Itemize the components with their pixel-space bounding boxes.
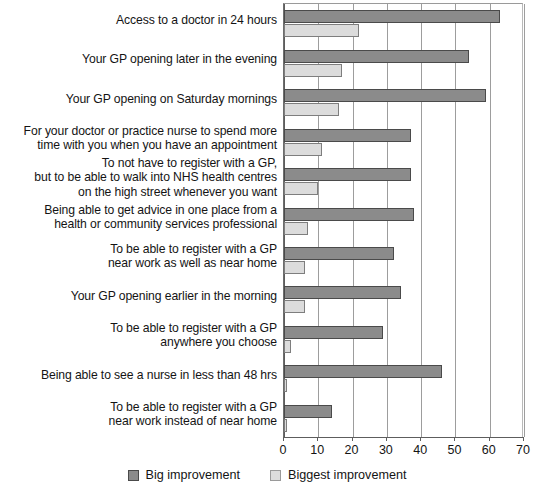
chart-legend: Big improvementBiggest improvement	[0, 468, 534, 482]
category-label-row: Being able to get advice in one place fr…	[0, 197, 277, 236]
category-label: Your GP opening earlier in the morning	[71, 289, 277, 303]
x-tick-label-50: 50	[447, 443, 461, 458]
bar-big-improvement	[284, 129, 411, 142]
bar-biggest-improvement	[284, 300, 305, 313]
bar-biggest-improvement	[284, 379, 287, 392]
category-axis-labels: Access to a doctor in 24 hoursYour GP op…	[0, 0, 281, 437]
category-label-row: To be able to register with a GP near wo…	[0, 395, 277, 434]
bar-group	[284, 365, 524, 392]
category-label: To be able to register with a GP anywher…	[110, 321, 277, 349]
gridline-70	[524, 4, 525, 437]
x-tick-20	[352, 437, 353, 441]
category-label-row: To not have to register with a GP, but t…	[0, 158, 277, 197]
x-tick-0	[283, 437, 284, 441]
x-tick-label-70: 70	[516, 443, 530, 458]
bar-group	[284, 326, 524, 353]
category-label-row: Access to a doctor in 24 hours	[0, 0, 277, 39]
legend-swatch-icon	[128, 470, 139, 481]
category-label: Being able to get advice in one place fr…	[44, 203, 277, 231]
x-tick-30	[386, 437, 387, 441]
category-label: Being able to see a nurse in less than 4…	[41, 368, 277, 382]
bar-group	[284, 168, 524, 195]
category-label: Your GP opening on Saturday mornings	[66, 92, 277, 106]
x-tick-label-40: 40	[413, 443, 427, 458]
legend-label: Biggest improvement	[288, 468, 406, 482]
x-tick-label-30: 30	[379, 443, 393, 458]
bar-biggest-improvement	[284, 340, 291, 353]
category-label-row: Being able to see a nurse in less than 4…	[0, 355, 277, 394]
bar-big-improvement	[284, 326, 383, 339]
plot-wrapper: Access to a doctor in 24 hoursYour GP op…	[0, 0, 534, 445]
bar-group	[284, 405, 524, 432]
bar-group	[284, 10, 524, 37]
category-label: To be able to register with a GP near wo…	[108, 242, 277, 270]
x-tick-label-10: 10	[310, 443, 324, 458]
bar-biggest-improvement	[284, 143, 322, 156]
category-label-row: Your GP opening later in the evening	[0, 39, 277, 78]
bar-biggest-improvement	[284, 261, 305, 274]
bar-group	[284, 50, 524, 77]
bar-big-improvement	[284, 50, 469, 63]
bar-chart: Access to a doctor in 24 hoursYour GP op…	[0, 0, 534, 491]
category-label-row: To be able to register with a GP anywher…	[0, 316, 277, 355]
bar-biggest-improvement	[284, 24, 359, 37]
bar-big-improvement	[284, 10, 500, 23]
plot-area	[283, 3, 523, 437]
category-label: Your GP opening later in the evening	[82, 52, 277, 66]
legend-swatch-icon	[270, 470, 281, 481]
x-tick-50	[454, 437, 455, 441]
bar-big-improvement	[284, 365, 442, 378]
category-label-row: To be able to register with a GP near wo…	[0, 237, 277, 276]
bar-biggest-improvement	[284, 222, 308, 235]
x-tick-label-0: 0	[280, 443, 287, 458]
x-tick-label-60: 60	[482, 443, 496, 458]
category-label: To not have to register with a GP, but t…	[34, 156, 277, 199]
category-label: Access to a doctor in 24 hours	[116, 13, 277, 27]
category-label: To be able to register with a GP near wo…	[109, 400, 277, 428]
bar-group	[284, 247, 524, 274]
legend-item-big-improvement[interactable]: Big improvement	[128, 468, 241, 482]
x-tick-10	[317, 437, 318, 441]
bar-group	[284, 286, 524, 313]
bar-biggest-improvement	[284, 419, 287, 432]
bar-big-improvement	[284, 208, 414, 221]
legend-item-biggest-improvement[interactable]: Biggest improvement	[270, 468, 406, 482]
bar-big-improvement	[284, 168, 411, 181]
x-tick-60	[489, 437, 490, 441]
bar-group	[284, 208, 524, 235]
category-label: For your doctor or practice nurse to spe…	[24, 124, 277, 152]
category-label-row: Your GP opening earlier in the morning	[0, 276, 277, 315]
x-tick-40	[420, 437, 421, 441]
bar-big-improvement	[284, 247, 394, 260]
bar-biggest-improvement	[284, 64, 342, 77]
bar-big-improvement	[284, 89, 486, 102]
bar-group	[284, 89, 524, 116]
bar-big-improvement	[284, 286, 401, 299]
category-label-row: For your doctor or practice nurse to spe…	[0, 118, 277, 157]
legend-label: Big improvement	[146, 468, 241, 482]
bar-biggest-improvement	[284, 182, 318, 195]
x-tick-70	[523, 437, 524, 441]
bar-group	[284, 129, 524, 156]
bar-big-improvement	[284, 405, 332, 418]
bar-biggest-improvement	[284, 103, 339, 116]
category-label-row: Your GP opening on Saturday mornings	[0, 79, 277, 118]
x-tick-label-20: 20	[345, 443, 359, 458]
